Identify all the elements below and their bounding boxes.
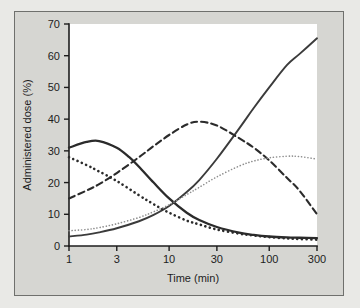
y-tick-label: 40: [48, 113, 60, 125]
figure-root: 010203040506070 131030100300 Time (min) …: [0, 0, 360, 308]
x-axis-title: Time (min): [167, 272, 219, 284]
y-tick-label: 0: [54, 240, 60, 252]
y-axis-tick-labels: 010203040506070: [48, 18, 60, 252]
y-tick-label: 10: [48, 208, 60, 220]
x-tick-label: 10: [163, 253, 175, 265]
y-tick-label: 20: [48, 177, 60, 189]
figure-frame: 010203040506070 131030100300 Time (min) …: [14, 11, 344, 296]
y-axis-title: Administered dose (%): [21, 79, 33, 190]
y-tick-label: 60: [48, 50, 60, 62]
plot-area-background: [69, 24, 317, 246]
x-tick-label: 100: [260, 253, 278, 265]
x-tick-label: 1: [66, 253, 72, 265]
y-tick-label: 30: [48, 145, 60, 157]
x-tick-label: 300: [308, 253, 326, 265]
y-tick-label: 50: [48, 81, 60, 93]
x-axis-tick-labels: 131030100300: [66, 253, 326, 265]
x-tick-label: 30: [211, 253, 223, 265]
y-tick-label: 70: [48, 18, 60, 30]
administered-dose-vs-time-chart: 010203040506070 131030100300 Time (min) …: [15, 12, 342, 294]
x-tick-label: 3: [114, 253, 120, 265]
